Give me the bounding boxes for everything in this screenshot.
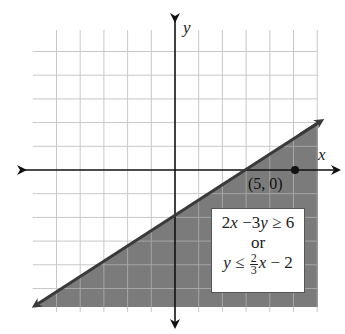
inequality-standard-form: 2x −3y ≥ 6 [212,213,304,233]
fraction-two-thirds: 23 [250,253,258,276]
y-axis-label: y [181,18,191,37]
inequality-slope-intercept-form: y ≤ 23x − 2 [212,253,304,276]
x-axis-label: x [317,145,326,164]
inequality-label-box: 2x −3y ≥ 6 or y ≤ 23x − 2 [211,208,305,293]
point-5-0 [291,166,299,174]
point-label: (5, 0) [248,175,283,193]
or-text: or [212,233,304,253]
